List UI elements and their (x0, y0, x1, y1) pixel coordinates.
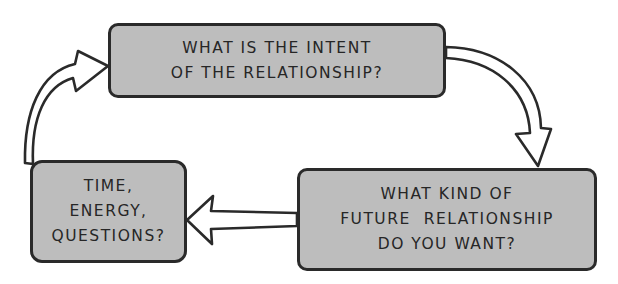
node-intent-of-relationship: WHAT IS THE INTENT OF THE RELATIONSHIP? (108, 23, 446, 98)
node-resources-line-3: QUESTIONS? (51, 224, 165, 249)
arrow-intent-to-future-icon (446, 47, 551, 166)
node-time-energy-questions: TIME, ENERGY, QUESTIONS? (30, 160, 187, 263)
node-intent-line-2: OF THE RELATIONSHIP? (171, 61, 383, 86)
node-resources-line-2: ENERGY, (69, 199, 147, 224)
arrow-future-to-resources-icon (187, 196, 297, 244)
node-future-line-2: FUTURE RELATIONSHIP (340, 207, 554, 232)
node-intent-line-1: WHAT IS THE INTENT (182, 36, 371, 61)
relationship-cycle-diagram: WHAT IS THE INTENT OF THE RELATIONSHIP? … (0, 0, 618, 284)
node-future-relationship: WHAT KIND OF FUTURE RELATIONSHIP DO YOU … (297, 168, 597, 271)
node-future-line-1: WHAT KIND OF (380, 182, 513, 207)
node-future-line-3: DO YOU WANT? (378, 232, 517, 257)
arrow-resources-to-intent-icon (25, 51, 108, 164)
node-resources-line-1: TIME, (84, 174, 134, 199)
